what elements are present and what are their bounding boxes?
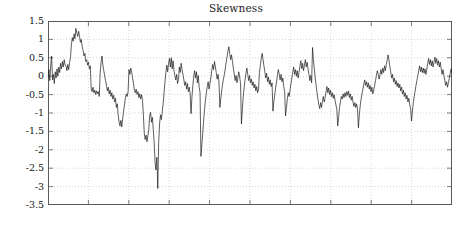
y-axis-tick-label: -2 — [0, 145, 44, 155]
y-axis-tick-label: -3.5 — [0, 200, 44, 210]
y-axis-tick-label: 1 — [0, 34, 44, 44]
plot-svg — [48, 21, 452, 205]
y-axis-tick-label: 0.5 — [0, 53, 44, 63]
skewness-chart-figure: Skewness 1.510.50-0.5-1-1.5-2-2.5-3-3.5 — [0, 0, 472, 227]
y-axis-tick-label: -0.5 — [0, 90, 44, 100]
y-axis-tick-label: -1 — [0, 108, 44, 118]
y-axis-tick-label: -2.5 — [0, 163, 44, 173]
chart-title: Skewness — [0, 2, 472, 14]
plot-area — [48, 21, 452, 205]
y-axis-tick-label: 1.5 — [0, 16, 44, 26]
y-axis-tick-label: -1.5 — [0, 126, 44, 136]
horizontal-gridlines — [48, 39, 452, 186]
y-axis-tick-label: -3 — [0, 182, 44, 192]
y-axis-tick-label: 0 — [0, 71, 44, 81]
y-axis-tick-labels: 1.510.50-0.5-1-1.5-2-2.5-3-3.5 — [0, 21, 44, 205]
